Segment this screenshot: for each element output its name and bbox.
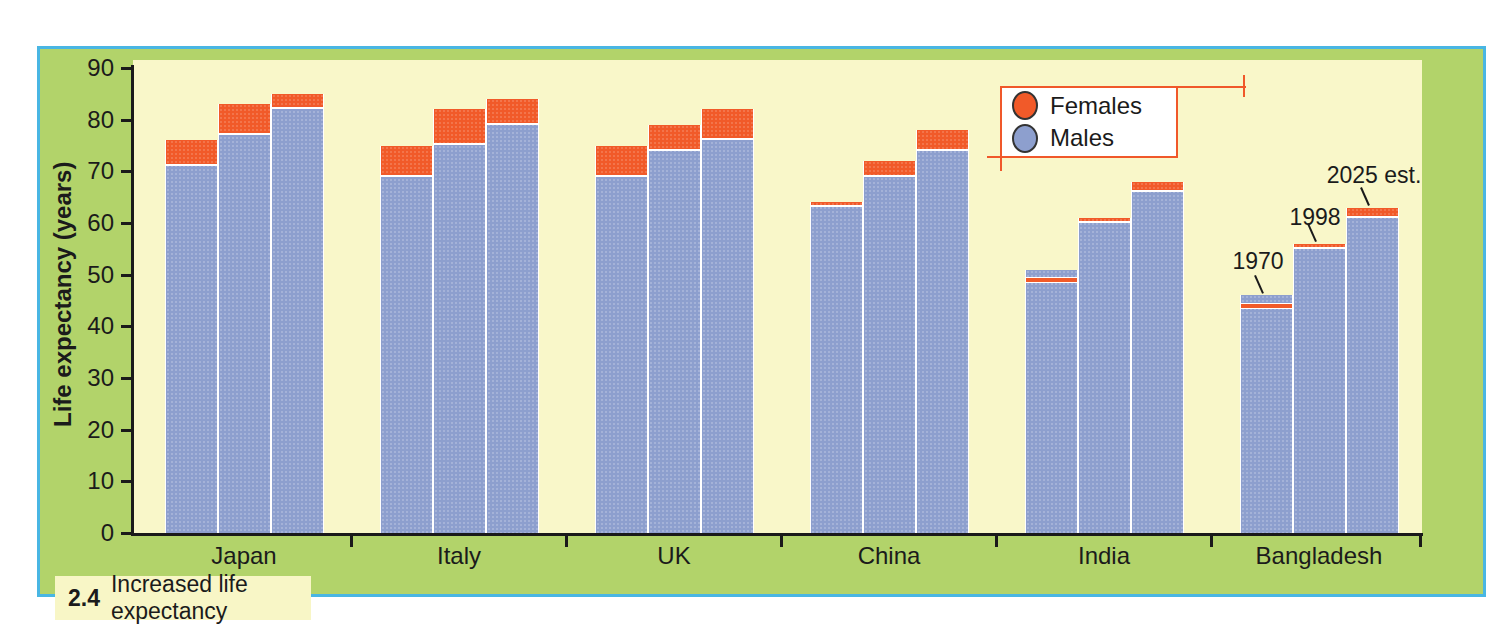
figure-caption: 2.4 Increased life expectancy	[55, 576, 311, 620]
y-tick-label: 70	[62, 157, 114, 185]
y-tick-label: 10	[62, 467, 114, 495]
females-stripe-segment	[1026, 277, 1077, 283]
legend-item-females: Females	[1012, 91, 1176, 120]
figure-canvas: Life expectancy (years) Females Males 2.…	[0, 0, 1490, 636]
country-label-india: India	[994, 542, 1214, 570]
bar-india-1970	[1025, 270, 1078, 534]
females-segment	[596, 146, 647, 177]
bar-uk-2025	[701, 109, 754, 533]
females-segment	[917, 130, 968, 151]
females-segment	[702, 109, 753, 140]
legend-label-females: Females	[1050, 92, 1142, 120]
plot-area	[133, 60, 1422, 533]
bar-china-1970	[810, 202, 863, 533]
legend: Females Males	[1000, 86, 1178, 158]
females-segment	[1347, 208, 1398, 218]
bar-italy-2025	[486, 99, 539, 533]
legend-item-males: Males	[1012, 124, 1176, 153]
bar-japan-2025	[271, 94, 324, 533]
bar-japan-1970	[165, 140, 218, 533]
bar-china-2025	[916, 130, 969, 533]
females-segment	[1079, 218, 1130, 223]
females-segment	[487, 99, 538, 125]
caption-text: Increased life expectancy	[111, 571, 311, 625]
bar-india-1998	[1078, 218, 1131, 533]
y-tick-label: 30	[62, 364, 114, 392]
y-tick-label: 80	[62, 106, 114, 134]
caption-number: 2.4	[68, 585, 100, 612]
legend-frame-mark	[1000, 158, 1002, 171]
bar-uk-1998	[648, 125, 701, 533]
legend-label-males: Males	[1050, 124, 1114, 152]
females-swatch-icon	[1012, 91, 1038, 120]
y-tick	[121, 274, 131, 277]
males-swatch-icon	[1012, 124, 1038, 153]
females-stripe-segment	[1241, 303, 1292, 309]
y-tick-label: 0	[62, 519, 114, 547]
country-label-italy: Italy	[349, 542, 569, 570]
bar-italy-1970	[380, 146, 433, 534]
bar-china-1998	[863, 161, 916, 533]
y-tick-label: 60	[62, 209, 114, 237]
females-segment	[434, 109, 485, 145]
y-tick	[121, 532, 131, 535]
females-segment	[811, 202, 862, 207]
y-tick-label: 40	[62, 312, 114, 340]
females-segment	[219, 104, 270, 135]
y-tick	[121, 429, 131, 432]
y-tick	[121, 377, 131, 380]
x-axis-line	[131, 533, 1423, 536]
y-tick-label: 90	[62, 54, 114, 82]
annotation-2025est: 2025 est.	[1327, 161, 1422, 188]
females-segment	[272, 94, 323, 110]
y-tick	[121, 222, 131, 225]
y-tick	[121, 170, 131, 173]
bar-uk-1970	[595, 146, 648, 534]
females-segment	[1132, 182, 1183, 192]
y-tick	[121, 119, 131, 122]
y-tick	[121, 67, 131, 70]
annotation-1970: 1970	[1232, 248, 1283, 275]
bar-italy-1998	[433, 109, 486, 533]
y-axis-line	[131, 65, 134, 536]
country-label-bangladesh: Bangladesh	[1209, 542, 1429, 570]
legend-frame-mark	[1176, 86, 1246, 88]
females-segment	[381, 146, 432, 177]
y-tick-label: 20	[62, 416, 114, 444]
legend-frame-mark	[1243, 75, 1245, 97]
legend-frame-mark	[987, 156, 1000, 158]
country-label-japan: Japan	[134, 542, 354, 570]
annotation-1998: 1998	[1289, 203, 1340, 230]
y-tick-label: 50	[62, 261, 114, 289]
country-label-china: China	[779, 542, 999, 570]
country-label-uk: UK	[564, 542, 784, 570]
females-segment	[649, 125, 700, 151]
bar-bangladesh-2025	[1346, 208, 1399, 534]
bar-bangladesh-1970	[1240, 295, 1293, 533]
bar-bangladesh-1998	[1293, 244, 1346, 533]
females-segment	[166, 140, 217, 166]
females-segment	[864, 161, 915, 177]
y-tick	[121, 325, 131, 328]
bar-japan-1998	[218, 104, 271, 533]
bar-india-2025	[1131, 182, 1184, 533]
y-tick	[121, 480, 131, 483]
females-segment	[1294, 244, 1345, 249]
